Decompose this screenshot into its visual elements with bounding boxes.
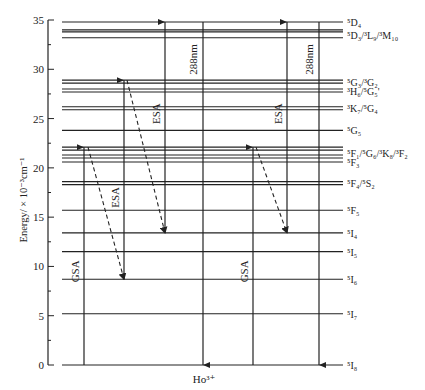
energy-level: ⁵F₄/⁵S₂ (62, 178, 375, 189)
y-tick-label: 0 (39, 359, 45, 371)
energy-level: ⁵D₄ (62, 17, 362, 28)
y-axis-title: Energy/ × 10⁻³cm⁻¹ (18, 158, 29, 243)
energy-level: ³H₆/⁵G₅' (62, 86, 380, 97)
level-label: ⁵I₄ (347, 228, 358, 239)
energy-level: ⁵G₅ (62, 125, 361, 136)
level-label: ⁵I₇ (347, 309, 357, 320)
y-tick-label: 20 (33, 162, 45, 174)
level-label: ⁵I₈ (347, 360, 358, 371)
level-label: ⁵I₆ (347, 274, 358, 285)
energy-level: ⁵F₅ (62, 205, 360, 216)
gsa-label: GSA (238, 260, 250, 282)
energy-level: ⁵I₇ (62, 309, 357, 320)
level-label: ³K₇/⁵G₄ (347, 103, 378, 114)
y-tick-label: 35 (33, 14, 45, 26)
level-label: ³H₆/⁵G₅' (347, 86, 380, 97)
energy-level: ⁵I₆ (62, 274, 358, 285)
gsa-label: GSA (69, 260, 81, 282)
energy-level: ⁵D₃/³L₉/³M₁₀ (62, 30, 399, 41)
level-label: ⁵G₅ (347, 125, 361, 136)
esa-label: ESA (109, 187, 121, 208)
nonradiative-relaxation-arrow (256, 147, 287, 233)
energy-level: ³K₇/⁵G₄ (62, 103, 378, 114)
288nm-label: 288nm (187, 44, 199, 75)
energy-level: ⁵I₈ (62, 360, 358, 371)
level-label: ⁵I₅ (347, 247, 357, 258)
esa-label: ESA (150, 103, 162, 124)
nonradiative-relaxation-arrow (88, 147, 124, 279)
energy-level: ⁵F₃ (62, 157, 360, 168)
energy-level: ⁵I₅ (62, 247, 357, 258)
level-label: ⁵D₃/³L₉/³M₁₀ (347, 30, 399, 41)
y-tick-label: 10 (33, 260, 45, 272)
ion-label: Ho³⁺ (193, 373, 216, 385)
y-tick-label: 30 (33, 63, 45, 75)
288nm-label: 288nm (303, 44, 315, 75)
y-tick-label: 25 (33, 113, 45, 125)
level-label: ⁵D₄ (347, 17, 362, 28)
energy-level-diagram: 05101520253035 ⁵D₄⁵D₃/³L₉/³M₁₀⁵G₃/³G₂³H₆… (0, 0, 425, 390)
y-axis: 05101520253035 (33, 14, 54, 371)
esa-label: ESA (272, 103, 284, 124)
level-label: ⁵F₃ (347, 157, 360, 168)
y-tick-label: 15 (33, 211, 45, 223)
energy-level: ⁵I₄ (62, 228, 358, 239)
level-label: ⁵F₄/⁵S₂ (347, 178, 375, 189)
level-label: ⁵F₅ (347, 205, 360, 216)
y-tick-label: 5 (39, 310, 45, 322)
energy-level: ⁵G₃/³G₂ (62, 77, 378, 88)
